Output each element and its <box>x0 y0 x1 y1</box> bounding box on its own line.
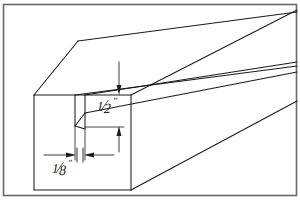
dimension-label-groove-width: 1⁄8" <box>51 158 72 176</box>
groove-floor-end <box>75 126 85 129</box>
dimension-groove-width <box>44 127 114 162</box>
dimension-label-groove-depth: 1⁄2" <box>96 96 117 113</box>
top-face-left-recede-edge <box>34 41 78 95</box>
beam-side-face <box>131 101 297 190</box>
groove-inner-wall-fold <box>75 113 85 126</box>
side-face-bottom-recede-edge <box>131 101 297 190</box>
depth-arrowhead-up <box>117 126 122 136</box>
fraction-one-half: 1⁄2 <box>97 97 114 114</box>
inch-mark-depth: " <box>113 95 118 106</box>
technical-drawing-canvas <box>0 0 300 208</box>
fraction-one-eighth: 1⁄8 <box>52 158 68 175</box>
groove-left-recede-top <box>75 66 297 95</box>
width-arrowhead-left <box>84 153 94 158</box>
figure-container: 1⁄2" 1⁄8" <box>0 0 300 208</box>
